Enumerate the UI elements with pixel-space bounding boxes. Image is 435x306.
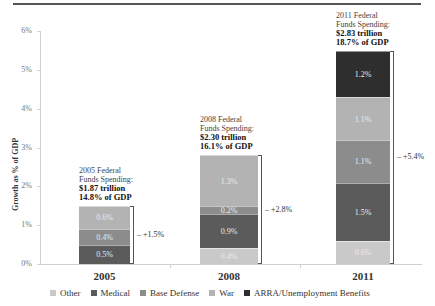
legend-label: Other <box>60 288 81 298</box>
x-axis <box>40 264 422 265</box>
y-tick-label: 0% <box>2 259 32 268</box>
bar-2005: 0.5%0.4%0.6% <box>79 206 130 264</box>
bar-segment-medical: 1.5% <box>336 183 390 241</box>
x-tick <box>170 264 171 268</box>
spending-annotation: 2008 FederalFunds Spending:$2.30 trillio… <box>200 115 254 151</box>
y-tick <box>37 70 41 71</box>
legend-swatch <box>50 290 56 296</box>
legend-swatch <box>244 290 250 296</box>
legend-label: ARRA/Unemployment Benefits <box>254 288 370 298</box>
y-tick-label: 2% <box>2 181 32 190</box>
legend-label: Medical <box>101 288 131 298</box>
top-rule <box>13 3 421 5</box>
bar-segment-other: 0.4% <box>200 248 258 264</box>
bar-2008: 0.4%0.9%0.2%1.3% <box>200 155 258 264</box>
y-tick-label: 4% <box>2 104 32 113</box>
bar-2011: 0.6%1.5%1.1%1.1%1.2% <box>336 51 390 264</box>
spending-annotation: 2011 FederalFunds Spending:$2.83 trillio… <box>336 11 390 47</box>
annotation-line: 2008 Federal <box>200 115 254 124</box>
y-tick <box>37 148 41 149</box>
y-tick <box>37 31 41 32</box>
annotation-line: 2005 Federal <box>79 166 133 175</box>
bar-segment-medical: 0.5% <box>79 245 130 264</box>
bar-segment-base-defense: 0.2% <box>200 206 258 214</box>
annotation-gdp: 18.7% of GDP <box>336 38 390 47</box>
y-tick-label: 3% <box>2 143 32 152</box>
legend-swatch <box>91 290 97 296</box>
bar-segment-medical: 0.9% <box>200 214 258 249</box>
legend-item: ARRA/Unemployment Benefits <box>244 288 370 298</box>
y-tick-label: 1% <box>2 220 32 229</box>
x-category-label: 2011 <box>323 270 403 282</box>
y-tick <box>37 186 41 187</box>
y-axis-title: Growth as % of GDP <box>11 120 20 230</box>
y-tick <box>37 225 41 226</box>
x-tick <box>300 264 301 268</box>
legend-swatch <box>140 290 146 296</box>
annotation-gdp: 16.1% of GDP <box>200 142 254 151</box>
annotation-line: 2011 Federal <box>336 11 390 20</box>
bar-segment-base-defense: 1.1% <box>336 140 390 183</box>
bar-segment-war: 1.3% <box>200 155 258 205</box>
y-tick <box>37 264 41 265</box>
y-tick-label: 6% <box>2 26 32 35</box>
bar-segment-war: 0.6% <box>79 206 130 229</box>
y-tick <box>37 109 41 110</box>
legend-label: Base Defense <box>150 288 199 298</box>
legend-swatch <box>209 290 215 296</box>
y-tick-label: 5% <box>2 65 32 74</box>
total-label: – +1.5% <box>137 230 164 239</box>
legend-item: Base Defense <box>140 288 199 298</box>
x-category-label: 2008 <box>189 270 269 282</box>
legend-label: War <box>219 288 234 298</box>
legend-item: Medical <box>91 288 131 298</box>
legend-item: Other <box>50 288 81 298</box>
bar-segment-other: 0.6% <box>336 241 390 264</box>
total-bracket <box>130 206 134 264</box>
bar-segment-war: 1.1% <box>336 97 390 140</box>
total-bracket <box>258 155 262 264</box>
total-label: – +2.8% <box>265 205 292 214</box>
legend: OtherMedicalBase DefenseWarARRA/Unemploy… <box>50 288 370 298</box>
bar-segment-arra-unemployment-benefits: 1.2% <box>336 51 390 98</box>
legend-item: War <box>209 288 234 298</box>
total-bracket <box>390 51 394 264</box>
bar-segment-base-defense: 0.4% <box>79 229 130 245</box>
x-category-label: 2005 <box>65 270 145 282</box>
annotation-gdp: 14.8% of GDP <box>79 193 133 202</box>
total-label: – +5.4% <box>397 152 424 161</box>
spending-annotation: 2005 FederalFunds Spending:$1.87 trillio… <box>79 166 133 202</box>
